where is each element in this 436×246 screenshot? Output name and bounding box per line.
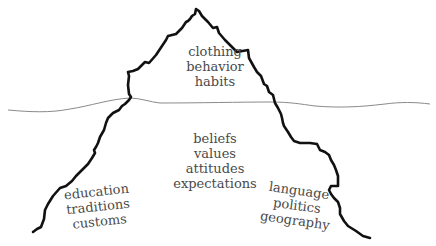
below-water-left-labels: education traditions customs <box>60 180 136 232</box>
label-expectations: expectations <box>150 176 280 191</box>
label-behavior: behavior <box>160 59 270 74</box>
label-attitudes: attitudes <box>150 161 280 176</box>
below-water-center-labels: beliefs values attitudes expectations <box>150 131 280 191</box>
label-beliefs: beliefs <box>150 131 280 146</box>
above-water-labels: clothing behavior habits <box>160 44 270 89</box>
below-water-right-labels: language politics geography <box>259 178 335 232</box>
waterline <box>8 98 430 112</box>
label-values: values <box>150 146 280 161</box>
label-habits: habits <box>160 74 270 89</box>
label-clothing: clothing <box>160 44 270 59</box>
